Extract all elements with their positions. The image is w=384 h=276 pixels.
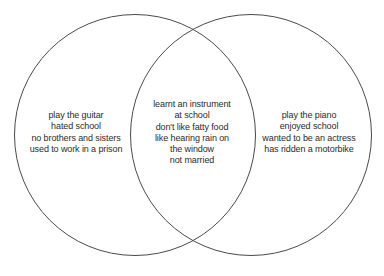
left-set-line: no brothers and sisters — [14, 133, 138, 144]
right-set-line: has ridden a motorbike — [247, 144, 371, 155]
intersection-line: learnt an instrument — [138, 99, 246, 110]
intersection-line: at school — [138, 110, 246, 121]
right-set-line: play the piano — [247, 110, 371, 121]
intersection-line: don't like fatty food — [138, 122, 246, 133]
left-set-line: used to work in a prison — [14, 144, 138, 155]
venn-diagram: play the guitar hated school no brothers… — [0, 0, 384, 276]
intersection-text-block: learnt an instrument at school don't lik… — [138, 99, 246, 167]
intersection-line: like hearing rain on — [138, 133, 246, 144]
right-set-line: wanted to be an actress — [247, 133, 371, 144]
left-set-line: play the guitar — [14, 110, 138, 121]
left-set-line: hated school — [14, 121, 138, 132]
left-set-text-block: play the guitar hated school no brothers… — [14, 110, 138, 155]
right-set-line: enjoyed school — [247, 121, 371, 132]
intersection-line: not married — [138, 155, 246, 166]
intersection-line: the window — [138, 144, 246, 155]
right-set-text-block: play the piano enjoyed school wanted to … — [247, 110, 371, 155]
